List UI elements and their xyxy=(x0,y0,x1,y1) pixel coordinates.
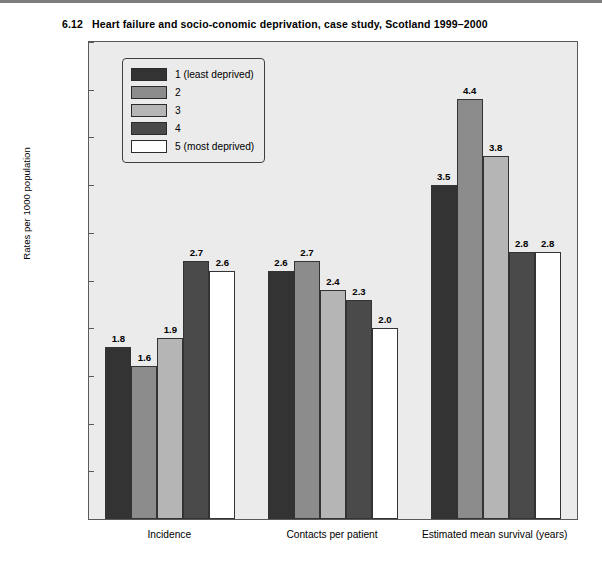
legend-item: 2 xyxy=(131,84,254,101)
plot-area: 00.51.01.52.02.53.03.54.04.55.01.81.61.9… xyxy=(88,41,578,520)
y-tick-mark xyxy=(89,328,94,329)
top-rule xyxy=(0,0,602,3)
legend-item: 4 xyxy=(131,120,254,137)
y-tick-mark xyxy=(89,42,94,43)
y-tick-mark xyxy=(89,376,94,377)
figure-title-text: Heart failure and socio-conomic deprivat… xyxy=(92,18,488,30)
bar xyxy=(457,99,483,519)
y-tick-mark xyxy=(89,90,94,91)
bar xyxy=(509,252,535,519)
bar xyxy=(483,156,509,519)
legend-label: 5 (most deprived) xyxy=(175,141,254,152)
bar-value-label: 2.6 xyxy=(202,257,242,268)
bar xyxy=(535,252,561,519)
bar-value-label: 1.8 xyxy=(98,333,138,344)
y-axis-title: Rates per 1000 population xyxy=(21,114,32,294)
bar xyxy=(268,271,294,519)
bar-value-label: 2.7 xyxy=(287,247,327,258)
y-tick-mark xyxy=(89,424,94,425)
category-label: Estimated mean survival (years) xyxy=(413,529,576,540)
legend-swatch xyxy=(131,68,167,81)
figure-container: 6.12Heart failure and socio-conomic depr… xyxy=(0,0,602,565)
y-tick-mark xyxy=(89,471,94,472)
legend-item: 3 xyxy=(131,102,254,119)
legend-label: 1 (least deprived) xyxy=(175,69,254,80)
bar xyxy=(294,261,320,519)
bar xyxy=(431,185,457,519)
bar-value-label: 2.8 xyxy=(528,238,568,249)
bar xyxy=(131,366,157,519)
bar xyxy=(183,261,209,519)
y-tick-mark xyxy=(89,137,94,138)
legend-label: 2 xyxy=(175,87,181,98)
figure-number: 6.12 xyxy=(62,18,83,30)
legend-label: 3 xyxy=(175,105,181,116)
legend-swatch xyxy=(131,86,167,99)
bar xyxy=(157,338,183,519)
legend-swatch xyxy=(131,104,167,117)
legend-label: 4 xyxy=(175,123,181,134)
category-label: Incidence xyxy=(88,529,251,540)
bar-value-label: 4.4 xyxy=(450,85,490,96)
y-tick-mark xyxy=(89,185,94,186)
legend-item: 1 (least deprived) xyxy=(131,66,254,83)
category-label: Contacts per patient xyxy=(251,529,414,540)
legend-swatch xyxy=(131,122,167,135)
legend-item: 5 (most deprived) xyxy=(131,138,254,155)
bar xyxy=(209,271,235,519)
bar-value-label: 2.0 xyxy=(365,314,405,325)
legend-swatch xyxy=(131,140,167,153)
bar-value-label: 2.3 xyxy=(339,286,379,297)
bar xyxy=(320,290,346,519)
y-tick-mark xyxy=(89,281,94,282)
y-tick-mark xyxy=(89,233,94,234)
bar xyxy=(346,300,372,519)
y-tick-mark xyxy=(89,519,94,520)
bar-value-label: 3.8 xyxy=(476,142,516,153)
bar xyxy=(105,347,131,519)
legend: 1 (least deprived)2345 (most deprived) xyxy=(122,58,265,163)
figure-title: 6.12Heart failure and socio-conomic depr… xyxy=(62,18,488,30)
bar xyxy=(372,328,398,519)
